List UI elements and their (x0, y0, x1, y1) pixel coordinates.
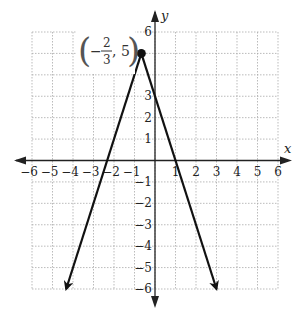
y-axis-arrow-down-icon (151, 296, 159, 308)
label-denominator: 3 (103, 53, 111, 67)
x-tick-label: −4 (61, 165, 79, 179)
x-tick-label: 3 (213, 165, 221, 179)
axes: xy (14, 8, 292, 308)
y-tick-label: 1 (144, 132, 152, 146)
label-minus: − (90, 43, 102, 59)
x-tick-label: 4 (233, 165, 241, 179)
x-tick-label: −3 (82, 165, 100, 179)
right-branch-line (141, 53, 216, 289)
x-axis-arrow-left-icon (14, 157, 26, 165)
label-close-paren: ) (127, 30, 140, 70)
x-axis-arrow-right-icon (280, 157, 292, 165)
label-numerator: 2 (103, 36, 111, 50)
x-tick-label: −6 (20, 165, 38, 179)
y-tick-label: −5 (134, 261, 152, 275)
x-tick-label: 6 (274, 165, 282, 179)
y-tick-label: −4 (134, 239, 152, 253)
absolute-value-graph: xy −6−5−4−3−2−11234566321−1−2−3−4−5−6 (−… (0, 0, 294, 310)
x-axis-label: x (284, 141, 292, 156)
x-tick-label: 5 (254, 165, 262, 179)
y-tick-label: −1 (134, 175, 152, 189)
y-tick-label: −2 (134, 196, 152, 210)
x-tick-label: −5 (41, 165, 59, 179)
y-tick-label: −3 (134, 218, 152, 232)
y-axis-label: y (160, 8, 169, 23)
y-axis-arrow-up-icon (151, 10, 159, 22)
y-tick-label: −6 (134, 282, 152, 296)
y-tick-label: 3 (144, 89, 152, 103)
annotations: (−23, 5) (77, 30, 146, 74)
y-tick-label: 2 (144, 111, 152, 125)
x-tick-label: 2 (192, 165, 200, 179)
y-tick-label: 6 (144, 25, 152, 39)
